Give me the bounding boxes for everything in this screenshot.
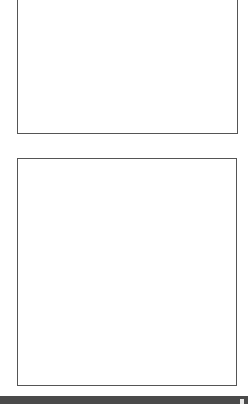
canvas [0, 0, 248, 404]
top-panel [17, 0, 238, 134]
resize-handle-icon[interactable] [240, 399, 244, 404]
bottom-bar [0, 396, 248, 404]
bottom-panel [17, 158, 237, 386]
